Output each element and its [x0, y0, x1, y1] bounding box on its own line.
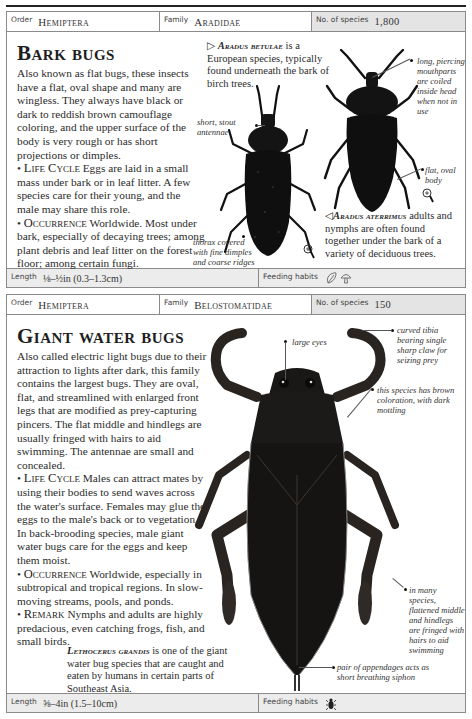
species-count-cell: No. of species 150 [312, 295, 465, 314]
page-title: Giant water bugs [17, 324, 184, 349]
annotation-large-eyes: large eyes [292, 337, 327, 347]
arrow-right-icon: ▷ [207, 40, 215, 51]
section-text: Males can attract mates by using their b… [17, 472, 205, 566]
caption-lethocerus-grandis: Lethocerus grandis is one of the giant w… [67, 645, 247, 695]
annotation-oval-body: flat, oval body [425, 165, 465, 185]
annotation-leader [285, 342, 286, 380]
annotation-antennae: short, stout antennae [197, 117, 247, 137]
family-label: Family [164, 298, 188, 307]
length-label: Length [11, 272, 37, 281]
family-cell: Family Aradidae [160, 12, 312, 31]
classification-header: Order Hemiptera Family Belostomatidae No… [7, 295, 465, 315]
annotation-coloration: this species has brown coloration, with … [377, 385, 457, 415]
annotation-leader [299, 667, 333, 668]
species-name: Aradus aterrimus [333, 210, 406, 221]
order-value: Hemiptera [38, 299, 89, 311]
family-label: Family [164, 15, 188, 24]
feeding-habits-cell: Feeding habits [259, 694, 465, 712]
annotation-dot [242, 235, 245, 238]
leaf-icon [326, 272, 337, 284]
section-heading: Remark [24, 607, 65, 621]
species-count-cell: No. of species 1,800 [312, 12, 465, 31]
length-value: ⅝–4in (1.5–10cm) [43, 698, 117, 709]
lethocerus-grandis-image [187, 325, 407, 695]
annotation-breathing-siphon: pair of appendages acts as short breathi… [337, 662, 447, 682]
family-cell: Family Belostomatidae [160, 295, 312, 314]
magnifier-icon [303, 244, 315, 260]
description-text: Also known as flat bugs, these insects h… [17, 67, 205, 271]
classification-header: Order Hemiptera Family Aradidae No. of s… [7, 12, 465, 32]
family-value: Belostomatidae [194, 299, 272, 311]
section-life-cycle: • Life Cycle Males can attract mates by … [17, 472, 207, 567]
family-value: Aradidae [194, 16, 240, 28]
section-heading: Life Cycle [24, 161, 80, 175]
annotation-dot [404, 588, 407, 591]
section-remark: • Remark Nymphs and adults are highly pr… [17, 608, 207, 649]
aradus-aterrimus-image [317, 48, 427, 218]
annotation-thorax: thorax covered with fine dimples and coa… [193, 237, 259, 267]
mushroom-icon [340, 272, 352, 284]
feeding-habits-cell: Feeding habits [259, 269, 465, 287]
annotation-leader [257, 125, 265, 126]
arrow-left-icon: ◁ [325, 210, 333, 221]
page-title: Bark bugs [17, 41, 115, 66]
annotation-dot [410, 59, 413, 62]
magnifier-icon [422, 188, 434, 204]
section-occurrence: • Occurrence Worldwide. Most under bark,… [17, 217, 205, 271]
entry-giant-water-bugs: Order Hemiptera Family Belostomatidae No… [6, 294, 466, 713]
length-cell: Length ⅝–4in (1.5–10cm) [7, 694, 259, 712]
feeding-habits-label: Feeding habits [263, 272, 318, 281]
intro-paragraph: Also called electric light bugs due to t… [17, 350, 207, 472]
species-name: Lethocerus grandis [67, 645, 150, 656]
order-cell: Order Hemiptera [7, 295, 160, 314]
section-heading: Occurrence [24, 567, 87, 581]
insect-icon [326, 697, 336, 710]
entry-body: Giant water bugs Also called electric li… [7, 315, 465, 693]
length-label: Length [11, 697, 37, 706]
order-cell: Order Hemiptera [7, 12, 160, 31]
description-text: Also called electric light bugs due to t… [17, 350, 207, 649]
annotation-swimming-legs: in many species, flattened middle and hi… [409, 585, 465, 655]
entry-footer: Length ⅝–4in (1.5–10cm) Feeding habits [7, 693, 465, 712]
order-label: Order [11, 298, 32, 307]
section-occurrence: • Occurrence Worldwide, especially in su… [17, 568, 207, 609]
species-count-value: 150 [374, 299, 391, 310]
annotation-dot [421, 168, 424, 171]
species-count-label: No. of species [316, 298, 368, 307]
annotation-mouthparts: long, piercing mouthparts are coiled ins… [417, 56, 467, 116]
order-label: Order [11, 15, 32, 24]
entry-body: Bark bugs Also known as flat bugs, these… [7, 32, 465, 268]
length-value: ⅛–½in (0.3–1.3cm) [43, 273, 122, 284]
top-rule [6, 5, 466, 7]
species-count-value: 1,800 [374, 16, 399, 27]
length-cell: Length ⅛–½in (0.3–1.3cm) [7, 269, 259, 287]
species-count-label: No. of species [316, 15, 368, 24]
feeding-habits-label: Feeding habits [263, 697, 318, 706]
species-name: Aradus betulae [218, 40, 283, 51]
annotation-curved-tibia: curved tibia bearing single sharp claw f… [397, 325, 463, 365]
caption-aradus-aterrimus: ◁Aradus aterrimus adults and nymphs are … [325, 210, 461, 260]
section-heading: Occurrence [24, 216, 87, 230]
entry-bark-bugs: Order Hemiptera Family Aradidae No. of s… [6, 11, 466, 288]
section-life-cycle: • Life Cycle Eggs are laid in a small ma… [17, 162, 205, 216]
section-heading: Life Cycle [24, 471, 80, 485]
annotation-leader [362, 330, 392, 331]
order-value: Hemiptera [38, 16, 89, 28]
intro-paragraph: Also known as flat bugs, these insects h… [17, 67, 205, 162]
